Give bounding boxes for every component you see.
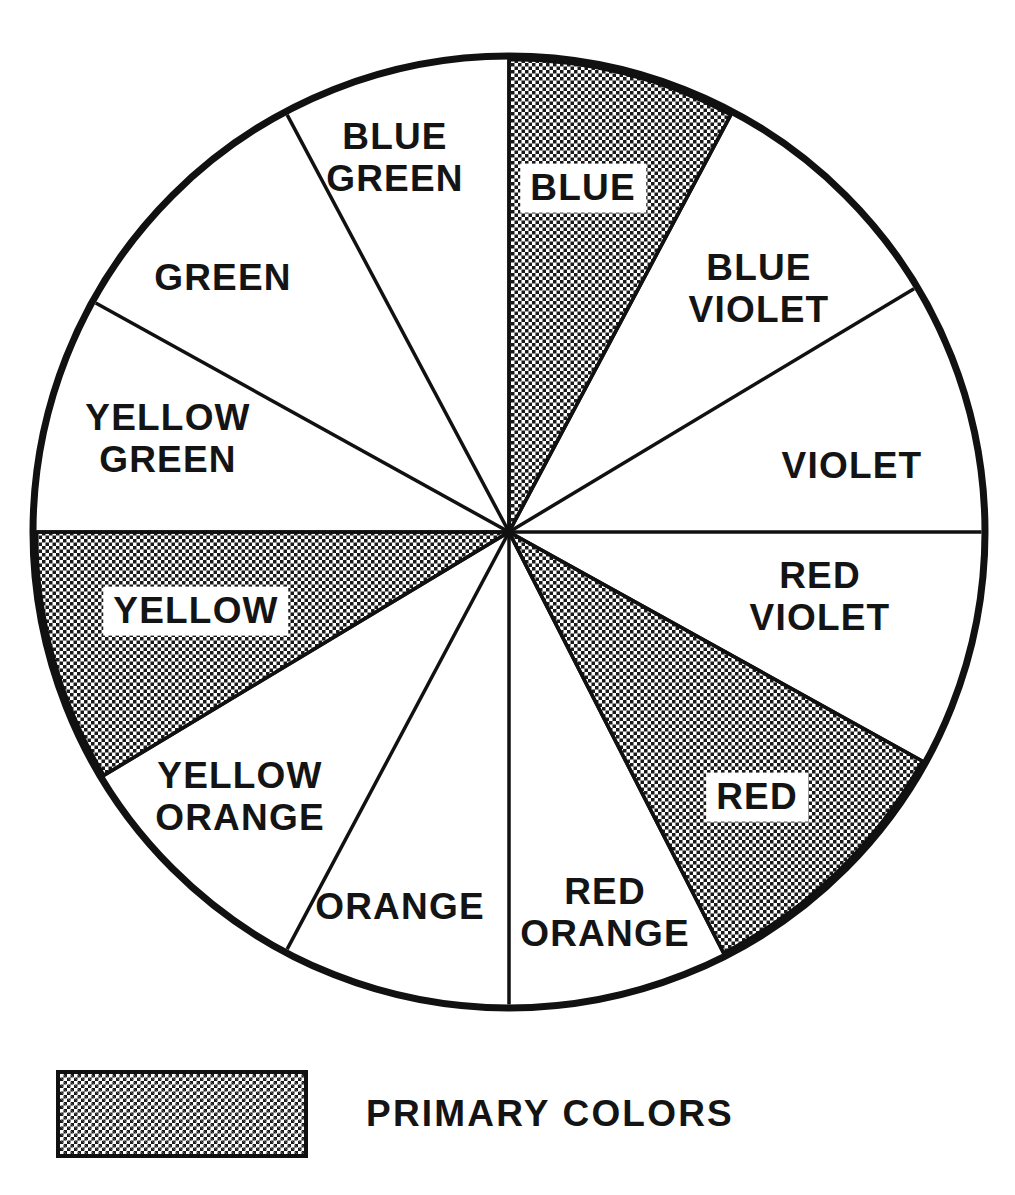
color-wheel-page: BLUEBLUE VIOLETVIOLETRED VIOLETREDRED OR… [0,0,1015,1195]
legend: PRIMARY COLORS [56,1070,734,1158]
sector-wedge-yellow[interactable] [37,532,510,775]
color-wheel-figure [0,0,1015,1195]
halftone-hatch-swatch [56,1070,308,1158]
sector-wedge-blue[interactable] [509,60,731,533]
sector-wedge-red[interactable] [509,532,922,953]
legend-label: PRIMARY COLORS [366,1093,734,1135]
